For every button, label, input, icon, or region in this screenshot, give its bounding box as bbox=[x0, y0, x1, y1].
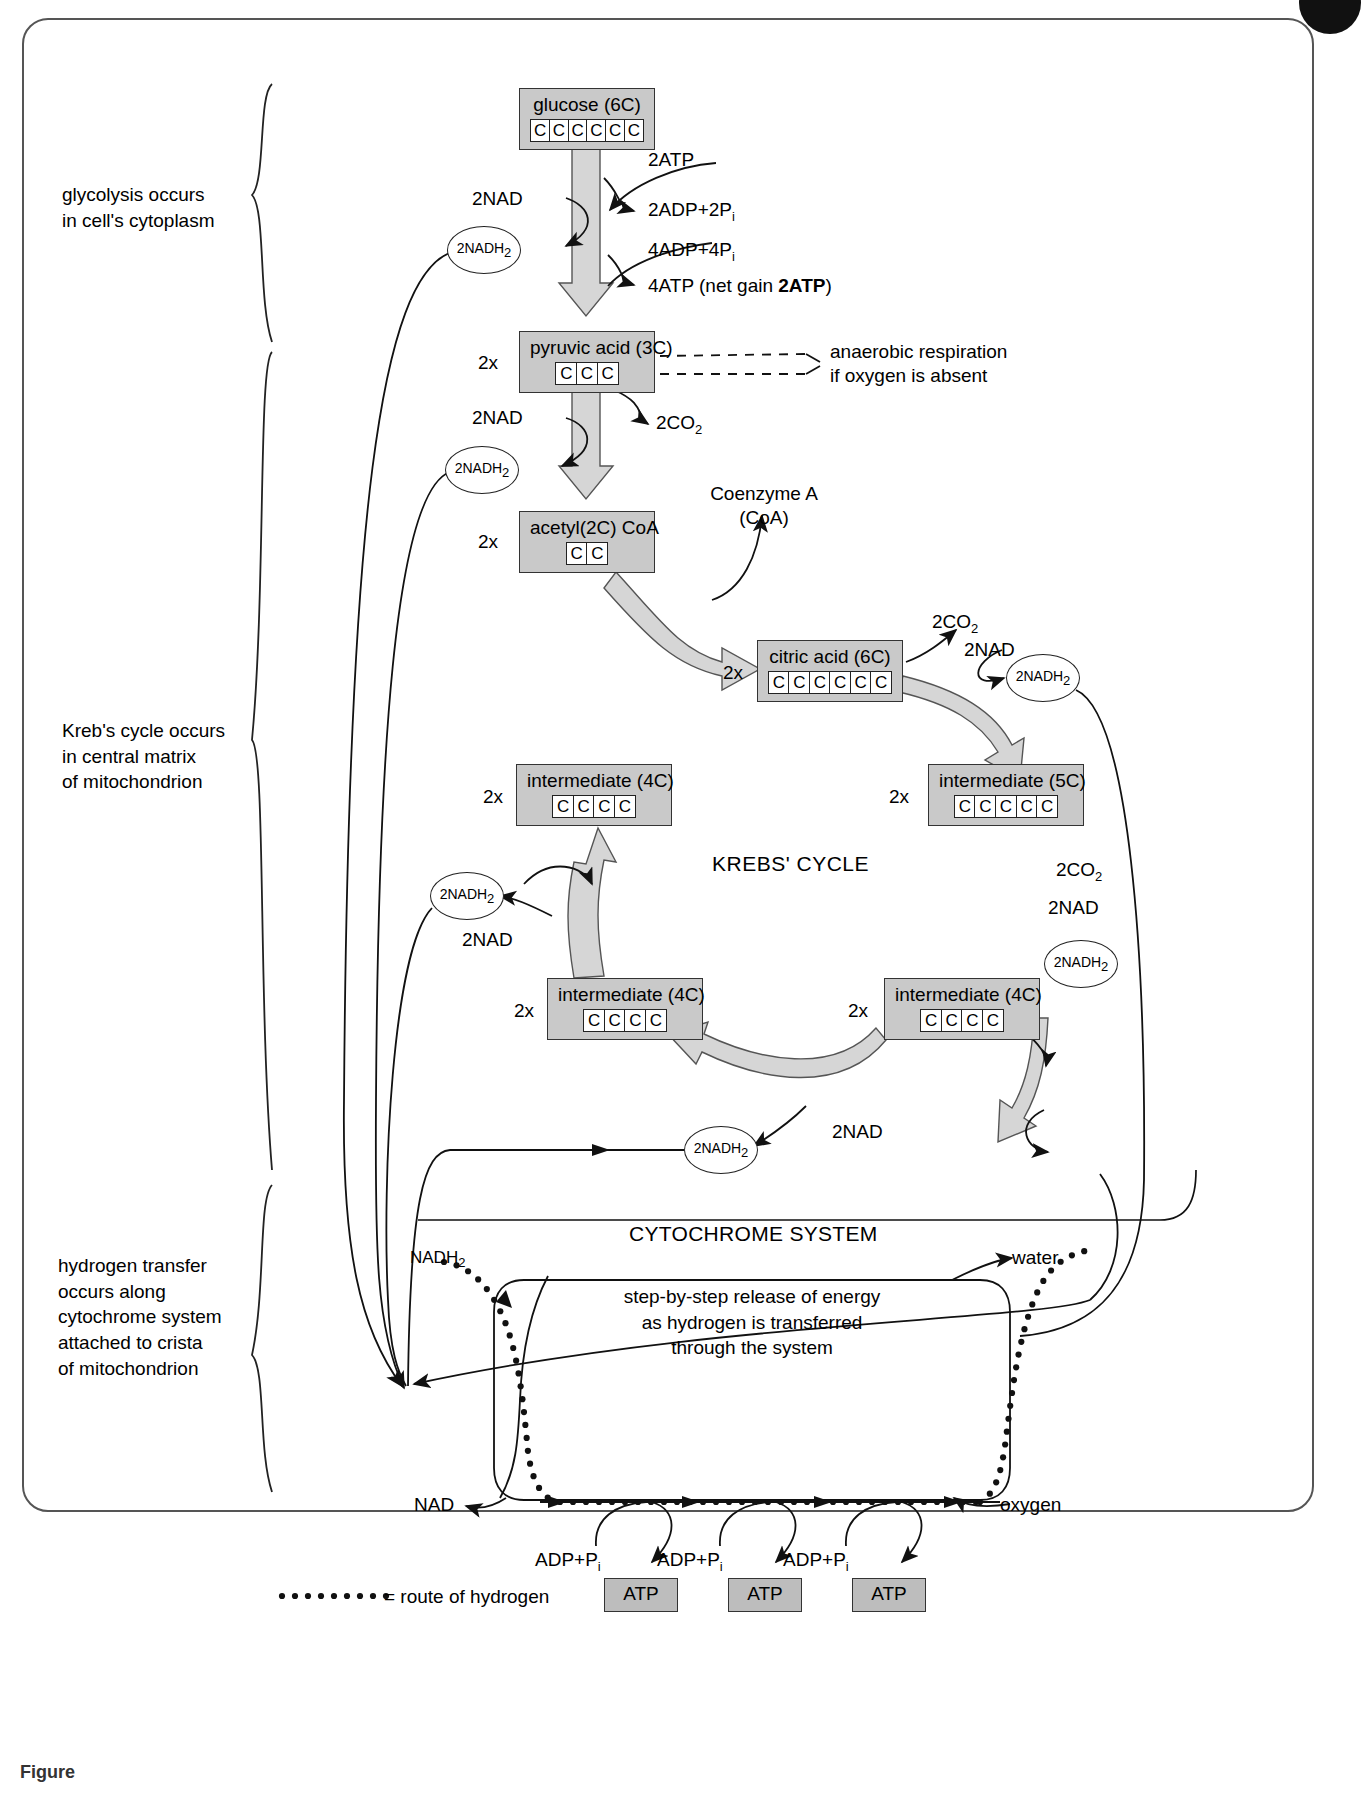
node-2nadh2-krebs-right[interactable]: 2NADH2 bbox=[1044, 940, 1118, 988]
carbon-unit: C bbox=[552, 795, 574, 818]
carbon-unit: C bbox=[555, 362, 577, 385]
atp-suffix: ) bbox=[825, 275, 831, 296]
legend-dot bbox=[292, 1593, 298, 1599]
legend-route-of-hydrogen: = route of hydrogen bbox=[384, 1586, 549, 1608]
cytochrome-system-description: step-by-step release of energy as hydrog… bbox=[540, 1284, 964, 1361]
co2-text: 2CO bbox=[1056, 859, 1095, 880]
carbon-unit: C bbox=[605, 119, 625, 142]
multiplier-inter4c-bottom: 2x bbox=[514, 1000, 534, 1022]
label-2nad-krebs-top: 2NAD bbox=[964, 638, 1015, 662]
carbon-unit: C bbox=[961, 1009, 983, 1032]
label-2co2-krebs-top: 2CO2 bbox=[932, 610, 978, 637]
carbon-unit: C bbox=[549, 119, 569, 142]
label-2adp-2pi-output: 2ADP+2Pi bbox=[648, 198, 735, 225]
label-2nad-link: 2NAD bbox=[472, 406, 523, 430]
carbon-unit: C bbox=[566, 542, 588, 565]
molecule-box-intermediate-5c[interactable]: intermediate (5C) CCCCC bbox=[928, 764, 1084, 826]
side-note-krebs: Kreb's cycle occurs in central matrix of… bbox=[62, 718, 277, 795]
molecule-box-citric-acid[interactable]: citric acid (6C) CCCCCC bbox=[757, 640, 903, 702]
carbon-unit: C bbox=[1016, 795, 1038, 818]
label-nadh2-cytochrome-input: NADH2 bbox=[410, 1247, 465, 1272]
carbon-unit: C bbox=[604, 1009, 626, 1032]
node-2nadh2-glycolysis[interactable]: 2NADH2 bbox=[447, 226, 521, 274]
label-oxygen-input: oxygen bbox=[1000, 1493, 1061, 1517]
adp-subscript: i bbox=[846, 1559, 849, 1574]
carbon-unit: C bbox=[624, 119, 644, 142]
nadh-label: 2NADH2 bbox=[455, 460, 510, 480]
nadh-label: 2NADH2 bbox=[1054, 954, 1109, 974]
nadh-label: 2NADH2 bbox=[694, 1140, 749, 1160]
carbon-unit: C bbox=[941, 1009, 963, 1032]
carbon-unit: C bbox=[586, 542, 608, 565]
molecule-name: intermediate (4C) bbox=[558, 984, 692, 1006]
legend-dot bbox=[279, 1593, 285, 1599]
nadh-text: NADH bbox=[410, 1248, 458, 1267]
adp-text: ADP+P bbox=[535, 1549, 598, 1570]
label-2co2-link: 2CO2 bbox=[656, 411, 702, 438]
atp-box-1[interactable]: ATP bbox=[604, 1578, 678, 1612]
molecule-box-intermediate-4c-left[interactable]: intermediate (4C) CCCC bbox=[516, 764, 672, 826]
molecule-name: intermediate (4C) bbox=[895, 984, 1029, 1006]
legend-dot bbox=[370, 1593, 376, 1599]
carbon-chain: CCCCC bbox=[939, 795, 1073, 818]
cytochrome-system-title: CYTOCHROME SYSTEM bbox=[629, 1222, 878, 1246]
multiplier-citric: 2x bbox=[723, 662, 743, 684]
co2-subscript: 2 bbox=[695, 422, 702, 437]
atp-prefix: 4ATP (net gain bbox=[648, 275, 778, 296]
adp-subscript: i bbox=[732, 209, 735, 224]
carbon-unit: C bbox=[809, 671, 831, 694]
multiplier-inter5c: 2x bbox=[889, 786, 909, 808]
legend-dot bbox=[305, 1593, 311, 1599]
carbon-unit: C bbox=[568, 119, 588, 142]
atp-box-2[interactable]: ATP bbox=[728, 1578, 802, 1612]
legend-dot bbox=[318, 1593, 324, 1599]
co2-subscript: 2 bbox=[971, 621, 978, 636]
label-2co2-krebs-right: 2CO2 bbox=[1056, 858, 1102, 885]
label-water-output: water bbox=[1012, 1246, 1058, 1270]
adp-subscript: i bbox=[720, 1559, 723, 1574]
molecule-box-intermediate-4c-right[interactable]: intermediate (4C) CCCC bbox=[884, 978, 1040, 1040]
multiplier-inter4c-left: 2x bbox=[483, 786, 503, 808]
molecule-box-pyruvic-acid[interactable]: pyruvic acid (3C) CCC bbox=[519, 331, 655, 393]
molecule-box-glucose[interactable]: glucose (6C) CCCCCC bbox=[519, 88, 655, 150]
node-2nadh2-link[interactable]: 2NADH2 bbox=[445, 446, 519, 494]
carbon-unit: C bbox=[583, 1009, 605, 1032]
label-2nad-krebs-left: 2NAD bbox=[462, 928, 513, 952]
side-note-glycolysis: glycolysis occurs in cell's cytoplasm bbox=[62, 182, 262, 233]
molecule-name: glucose (6C) bbox=[530, 94, 644, 116]
nadh-subscript: 2 bbox=[458, 1255, 465, 1270]
label-anaerobic-respiration: anaerobic respiration if oxygen is absen… bbox=[830, 340, 1040, 389]
multiplier-pyruvic: 2x bbox=[478, 352, 498, 374]
label-adp-pi-2: ADP+Pi bbox=[657, 1548, 723, 1575]
molecule-box-acetyl-coa[interactable]: acetyl(2C) CoA CC bbox=[519, 511, 655, 573]
atp-box-3[interactable]: ATP bbox=[852, 1578, 926, 1612]
node-2nadh2-krebs-top[interactable]: 2NADH2 bbox=[1006, 654, 1080, 702]
krebs-cycle-title: KREBS' CYCLE bbox=[712, 852, 869, 876]
molecule-name: pyruvic acid (3C) bbox=[530, 337, 644, 359]
carbon-unit: C bbox=[576, 362, 598, 385]
nadh-label: 2NADH2 bbox=[457, 240, 512, 260]
adp-text: ADP+P bbox=[657, 1549, 720, 1570]
adp-subscript: i bbox=[598, 1559, 601, 1574]
carbon-unit: C bbox=[768, 671, 790, 694]
legend-dot bbox=[331, 1593, 337, 1599]
multiplier-acetyl: 2x bbox=[478, 531, 498, 553]
node-2nadh2-krebs-bottom[interactable]: 2NADH2 bbox=[684, 1126, 758, 1174]
node-2nadh2-krebs-left[interactable]: 2NADH2 bbox=[430, 872, 504, 920]
carbon-chain: CCCCCC bbox=[530, 119, 644, 142]
nadh-label: 2NADH2 bbox=[1016, 668, 1071, 688]
carbon-unit: C bbox=[645, 1009, 667, 1032]
carbon-unit: C bbox=[573, 795, 595, 818]
adp-text: ADP+P bbox=[783, 1549, 846, 1570]
label-2atp-input: 2ATP bbox=[648, 148, 694, 172]
label-adp-pi-1: ADP+Pi bbox=[535, 1548, 601, 1575]
side-note-hydrogen: hydrogen transfer occurs along cytochrom… bbox=[58, 1253, 268, 1381]
co2-text: 2CO bbox=[656, 412, 695, 433]
carbon-chain: CCCC bbox=[558, 1009, 692, 1032]
carbon-unit: C bbox=[829, 671, 851, 694]
legend-dot bbox=[357, 1593, 363, 1599]
label-coenzyme-a: Coenzyme A (CoA) bbox=[674, 482, 854, 531]
molecule-box-intermediate-4c-bottom[interactable]: intermediate (4C) CCCC bbox=[547, 978, 703, 1040]
molecule-name: citric acid (6C) bbox=[768, 646, 892, 668]
carbon-unit: C bbox=[624, 1009, 646, 1032]
